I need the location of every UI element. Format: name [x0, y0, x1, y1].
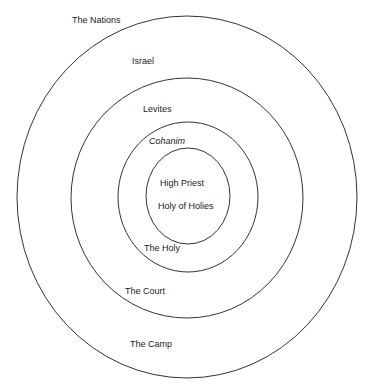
- label-cohanim: Cohanim: [149, 136, 185, 146]
- ring-third: [118, 122, 258, 272]
- ring-outer: [17, 16, 357, 378]
- label-the-camp: The Camp: [130, 339, 172, 349]
- ring-second: [71, 78, 303, 318]
- label-israel: Israel: [132, 56, 154, 66]
- label-levites: Levites: [143, 104, 172, 114]
- label-holy-of-holies: Holy of Holies: [158, 201, 214, 211]
- label-the-court: The Court: [125, 286, 165, 296]
- ring-inner: [146, 148, 230, 244]
- label-high-priest: High Priest: [160, 178, 204, 188]
- concentric-rings: [0, 0, 366, 391]
- label-the-holy: The Holy: [144, 243, 180, 253]
- label-the-nations: The Nations: [72, 15, 121, 25]
